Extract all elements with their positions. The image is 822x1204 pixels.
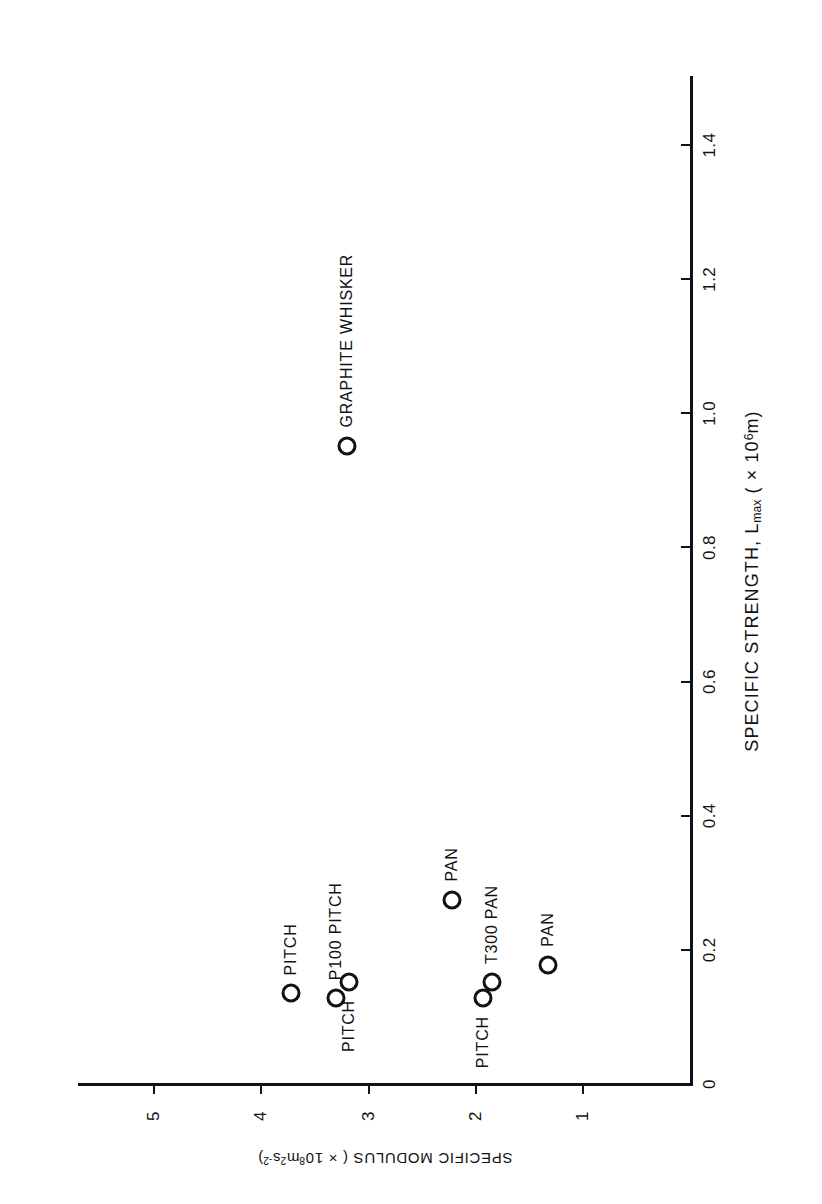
x-tick-0.8 — [681, 546, 690, 548]
data-point-marker — [282, 984, 301, 1003]
y-axis-title-main: SPECIFIC MODULUS ( × 10 — [305, 1150, 512, 1167]
y-tick-2 — [475, 1085, 477, 1094]
y-tick-label-5: 5 — [144, 1111, 164, 1121]
x-axis-title-exponent: 6 — [742, 434, 756, 441]
data-point-label: PITCH — [340, 1000, 358, 1052]
y-axis-title-exp-3: -2 — [263, 1155, 272, 1166]
x-tick-label-1.2: 1.2 — [700, 267, 720, 292]
y-tick-1 — [582, 1085, 584, 1094]
rotated-figure: 00.20.40.60.81.01.21.4 12345 PITCHP100 P… — [0, 0, 822, 1204]
x-axis-title: SPECIFIC STRENGTH, Lmax ( × 106m) — [742, 410, 764, 751]
data-point-label: PITCH — [474, 1016, 492, 1068]
x-tick-label-0.8: 0.8 — [700, 535, 720, 560]
data-point-label: PITCH — [282, 923, 300, 975]
x-axis-title-tail-open: ( × 10 — [742, 440, 762, 499]
y-axis-title-mid-1: m — [286, 1150, 299, 1167]
y-tick-4 — [260, 1085, 262, 1094]
data-point-marker — [538, 955, 557, 974]
data-point-marker — [338, 436, 357, 455]
x-tick-0.6 — [681, 681, 690, 683]
data-point-marker — [482, 973, 501, 992]
x-tick-1.2 — [681, 278, 690, 280]
data-point-label: GRAPHITE WHISKER — [338, 254, 356, 428]
y-tick-label-3: 3 — [359, 1111, 379, 1121]
y-axis-title-exp-1: 8 — [299, 1155, 305, 1166]
y-tick-label-1: 1 — [573, 1111, 593, 1121]
y-axis-line — [78, 1083, 693, 1086]
x-axis-title-tail-close: m) — [742, 410, 762, 433]
y-tick-5 — [153, 1085, 155, 1094]
x-tick-label-0.2: 0.2 — [700, 937, 720, 962]
x-tick-0.2 — [681, 949, 690, 951]
data-point-label: T300 PAN — [483, 885, 501, 964]
x-tick-label-0.4: 0.4 — [700, 803, 720, 828]
x-tick-1.4 — [681, 144, 690, 146]
x-tick-label-0: 0 — [700, 1079, 720, 1089]
data-point-label: PAN — [443, 847, 461, 881]
x-axis-line — [690, 76, 693, 1086]
x-tick-label-1.4: 1.4 — [700, 133, 720, 158]
y-tick-label-4: 4 — [251, 1111, 271, 1121]
y-axis-title-exp-2: 2 — [281, 1155, 287, 1166]
x-tick-0.4 — [681, 815, 690, 817]
x-tick-1.0 — [681, 412, 690, 414]
data-point-label: PAN — [539, 913, 557, 947]
y-axis-title-mid-2: s — [272, 1150, 280, 1167]
y-axis-title: SPECIFIC MODULUS ( × 108m2s-2) — [258, 1150, 513, 1167]
y-tick-label-2: 2 — [466, 1111, 486, 1121]
x-tick-label-1.0: 1.0 — [700, 401, 720, 426]
data-point-marker — [443, 890, 462, 909]
x-tick-0 — [681, 1083, 690, 1085]
data-point-label: P100 PITCH — [327, 882, 345, 980]
x-axis-title-subscript: max — [750, 500, 764, 523]
x-axis-title-main: SPECIFIC STRENGTH, L — [742, 523, 762, 752]
scatter-plot: 00.20.40.60.81.01.21.4 12345 PITCHP100 P… — [0, 0, 822, 1204]
data-point-marker — [340, 973, 359, 992]
x-tick-label-0.6: 0.6 — [700, 669, 720, 694]
y-tick-3 — [368, 1085, 370, 1094]
y-axis-title-tail: ) — [258, 1150, 264, 1167]
